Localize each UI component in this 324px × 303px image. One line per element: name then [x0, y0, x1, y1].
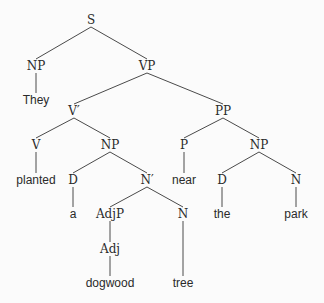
- word-node-park: park: [284, 208, 307, 220]
- word-node-near: near: [172, 174, 196, 186]
- edge-S-VP: [91, 27, 147, 59]
- edge-VP-PP: [147, 73, 223, 104]
- word-node-they: They: [23, 94, 50, 106]
- category-node-n2: N: [291, 174, 302, 186]
- category-node-adjp: AdjP: [96, 208, 124, 220]
- word-node-tree: tree: [173, 277, 194, 289]
- category-node-d2: D: [217, 174, 227, 186]
- word-node-the: the: [214, 208, 231, 220]
- edge-PP-P: [184, 118, 223, 138]
- category-node-n1: N: [178, 208, 189, 220]
- word-node-a: a: [70, 208, 77, 220]
- edge-S-NP1: [36, 27, 91, 59]
- category-node-pp: PP: [215, 105, 231, 117]
- edge-NP2-Nbar: [110, 152, 147, 173]
- word-node-planted: planted: [16, 174, 55, 186]
- edge-NP3-D2: [222, 152, 259, 173]
- category-node-s: S: [87, 14, 95, 26]
- edge-PP-NP3: [223, 118, 259, 138]
- category-node-np3: NP: [250, 139, 269, 151]
- edge-NP2-D1: [73, 152, 110, 173]
- category-node-np2: NP: [101, 139, 120, 151]
- category-node-nbar: N′: [140, 174, 153, 186]
- edge-NP3-N2: [259, 152, 296, 173]
- edge-Vbar-V: [36, 118, 74, 138]
- tree-edges: [0, 0, 324, 303]
- category-node-p: P: [180, 139, 188, 151]
- syntax-tree: SNPTheyVPV′PPVNPPNPplantedDN′nearDNaAdjP…: [0, 0, 324, 303]
- word-node-dogwood: dogwood: [86, 277, 135, 289]
- category-node-v: V: [32, 139, 41, 151]
- edge-Nbar-N1: [147, 187, 183, 207]
- category-node-adj: Adj: [100, 243, 120, 255]
- category-node-np1: NP: [27, 60, 46, 72]
- edge-Nbar-AdjP: [110, 187, 147, 207]
- edge-VP-Vbar: [74, 73, 147, 104]
- category-node-vp: VP: [139, 60, 156, 72]
- edge-Vbar-NP2: [74, 118, 110, 138]
- category-node-vbar: V′: [68, 105, 79, 117]
- category-node-d1: D: [68, 174, 78, 186]
